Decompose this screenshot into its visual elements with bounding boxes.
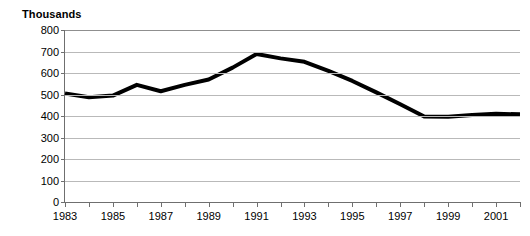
x-tick-1996 [376,202,377,207]
y-tick [61,181,65,182]
x-tick-1985 [113,202,114,207]
x-tick-1986 [137,202,138,207]
x-tick-2000 [472,202,473,207]
x-tick-1997 [400,202,401,207]
gridline-100 [65,181,520,182]
y-tick [61,116,65,117]
gridline-700 [65,52,520,53]
y-tick [61,159,65,160]
x-tick-1989 [209,202,210,207]
x-tick-1999 [448,202,449,207]
x-tick-1995 [352,202,353,207]
y-axis-label-600: 600 [19,68,59,78]
x-tick-1990 [233,202,234,207]
y-axis-label-700: 700 [19,47,59,57]
x-tick-1988 [185,202,186,207]
x-axis-line [65,202,521,203]
x-tick-2001 [496,202,497,207]
x-axis-label-1987: 1987 [149,210,173,222]
x-tick-1994 [328,202,329,207]
y-tick [61,95,65,96]
y-axis-label-800: 800 [19,25,59,35]
x-tick-1983 [65,202,66,207]
x-axis-label-1997: 1997 [388,210,412,222]
gridline-800 [65,30,520,31]
y-axis-label-400: 400 [19,111,59,121]
y-axis-label-200: 200 [19,154,59,164]
gridline-600 [65,73,520,74]
y-tick [61,138,65,139]
x-tick-1987 [161,202,162,207]
y-tick [61,30,65,31]
x-axis-label-2001: 2001 [484,210,508,222]
x-tick-1993 [304,202,305,207]
gridline-500 [65,95,520,96]
x-tick-1984 [89,202,90,207]
x-axis-label-1989: 1989 [196,210,220,222]
y-axis-label-0: 0 [19,197,59,207]
gridline-300 [65,138,520,139]
x-axis-label-1983: 1983 [53,210,77,222]
x-axis-label-1985: 1985 [101,210,125,222]
x-tick-1998 [424,202,425,207]
gridline-400 [65,116,520,117]
gridline-200 [65,159,520,160]
x-axis-label-1991: 1991 [244,210,268,222]
x-axis-label-1995: 1995 [340,210,364,222]
line-chart: Thousands 800700600500400300200100019831… [0,0,530,236]
y-axis-label-100: 100 [19,176,59,186]
x-tick-1992 [281,202,282,207]
y-axis-unit-label: Thousands [22,8,82,20]
x-axis-label-1999: 1999 [436,210,460,222]
y-axis-label-300: 300 [19,133,59,143]
series-line-0 [65,54,520,117]
x-tick-2002 [520,202,521,207]
x-axis-label-1993: 1993 [292,210,316,222]
plot-area [65,30,520,202]
y-tick [61,52,65,53]
y-tick [61,73,65,74]
y-axis-label-500: 500 [19,90,59,100]
x-tick-1991 [257,202,258,207]
